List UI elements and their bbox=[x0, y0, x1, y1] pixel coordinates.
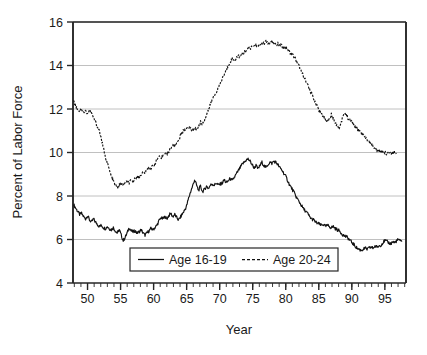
x-tick-label: 55 bbox=[114, 292, 128, 306]
unemployment-rate-line-chart: 46810121416 50556065707580859095 Age 16-… bbox=[0, 0, 427, 355]
x-tick-label: 90 bbox=[345, 292, 359, 306]
y-tick-label: 10 bbox=[49, 146, 63, 160]
y-tick-label: 6 bbox=[56, 233, 63, 247]
legend-label: Age 20-24 bbox=[273, 253, 331, 267]
x-axis-title: Year bbox=[226, 322, 253, 337]
x-tick-label: 75 bbox=[246, 292, 260, 306]
x-tick-label: 50 bbox=[81, 292, 95, 306]
legend-label: Age 16-19 bbox=[169, 253, 227, 267]
x-tick-label: 70 bbox=[213, 292, 227, 306]
chart-figure: 46810121416 50556065707580859095 Age 16-… bbox=[0, 0, 427, 355]
y-tick-label: 12 bbox=[49, 103, 63, 117]
chart-legend: Age 16-19Age 20-24 bbox=[130, 248, 338, 271]
x-tick-label: 80 bbox=[279, 292, 293, 306]
x-tick-label: 95 bbox=[378, 292, 392, 306]
y-tick-label: 16 bbox=[49, 16, 63, 30]
y-tick-label: 4 bbox=[56, 277, 63, 291]
y-tick-label: 8 bbox=[56, 190, 63, 204]
y-axis-title: Percent of Labor Force bbox=[10, 86, 25, 219]
x-tick-label: 60 bbox=[147, 292, 161, 306]
x-tick-label: 85 bbox=[312, 292, 326, 306]
x-tick-label: 65 bbox=[180, 292, 194, 306]
y-tick-label: 14 bbox=[49, 59, 63, 73]
